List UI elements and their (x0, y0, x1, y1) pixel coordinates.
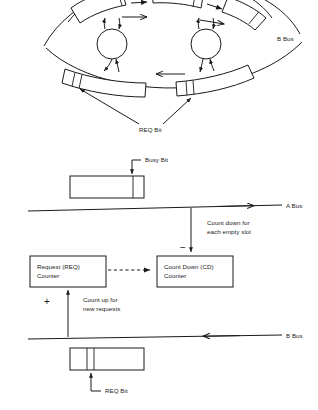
node-right-link-down-in (200, 59, 203, 72)
node-left-link-in (104, 18, 105, 29)
busy-bit-label: Busy Bit (145, 156, 168, 163)
ring-slot-upper-left (71, 0, 126, 23)
linear-req-bit-leader (91, 373, 101, 391)
a-bus-direction-arrow (215, 206, 254, 207)
busy-bit-leader (132, 160, 141, 174)
b-bus-label: B Bus (286, 332, 303, 339)
count-down-counter-box: Count Down (CD) Counter (157, 256, 233, 287)
node-left-link-down-out (116, 59, 119, 72)
ring-req-bit-label: REQ Bit (139, 126, 162, 133)
count-up-note-line1: Count up for (83, 296, 118, 303)
count-down-note-line2: each empty slot (207, 228, 251, 235)
count-down-counter-label-line2: Counter (164, 272, 186, 279)
node-right-link-down-out (210, 59, 214, 71)
slot-advance-arrow-2 (207, 4, 222, 9)
b-bus-line (28, 335, 282, 339)
ring-node-right (191, 18, 221, 72)
node-right-link-in (198, 18, 199, 29)
request-counter-label-line2: Counter (37, 272, 59, 279)
linear-diagram: Busy Bit A Bus − Count down for each emp… (28, 156, 303, 394)
diagram-canvas: REQ Bit B Bus Busy Bit A Bus − Count dow… (0, 0, 318, 410)
count-up-note-line2: new requests (83, 305, 120, 312)
b-bus-slot-frame (70, 348, 144, 370)
node-right-link-out (213, 18, 214, 29)
count-down-counter-label-line1: Count Down (CD) (164, 263, 214, 270)
ring-diagram: REQ Bit B Bus (44, 0, 302, 133)
minus-sign: − (180, 242, 186, 253)
ring-slot-lower-right (176, 65, 254, 96)
a-bus-label: A Bus (286, 202, 302, 209)
node-left-link-out (119, 18, 120, 29)
inner-ring-flow-arrow-right (200, 20, 224, 24)
ring-node-left (97, 18, 127, 72)
plus-sign: + (44, 296, 50, 307)
ring-slot-upper-mid (152, 0, 204, 8)
ring-b-bus-label: B Bus (277, 35, 294, 42)
linear-req-bit-label: REQ Bit (105, 387, 128, 394)
node-left-link-down-in (104, 59, 112, 71)
a-bus-slot-frame (70, 176, 144, 198)
req-bit-leader-right (163, 98, 191, 124)
ring-slot-lower-left (62, 69, 146, 97)
slot-advance-arrow-1 (131, 2, 147, 3)
request-counter-box: Request (REQ) Counter (30, 256, 106, 287)
request-counter-label-line1: Request (REQ) (37, 263, 80, 270)
b-bus-direction-arrow (203, 336, 240, 337)
figure-root: REQ Bit B Bus Busy Bit A Bus − Count dow… (0, 0, 318, 410)
count-down-note-line1: Count down for (207, 219, 250, 226)
